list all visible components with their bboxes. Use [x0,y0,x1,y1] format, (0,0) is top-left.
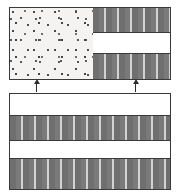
shale-band-upper [93,8,170,33]
sandstone-body [10,8,94,79]
shale-band-2 [10,159,170,189]
correlation-arrow-right [131,79,140,92]
arrow-shaft [135,82,136,92]
arrow-shaft [36,82,37,92]
blank-band-upper [93,33,170,54]
shale-band-lower [93,54,170,79]
upper-panel [9,7,171,80]
lower-panel [9,93,171,190]
blank-band-1 [10,94,170,116]
stratigraphic-figure [0,0,177,194]
correlation-arrow-left [32,79,41,92]
blank-band-2 [10,141,170,159]
shale-band-1 [10,116,170,141]
layered-stack [93,8,170,79]
